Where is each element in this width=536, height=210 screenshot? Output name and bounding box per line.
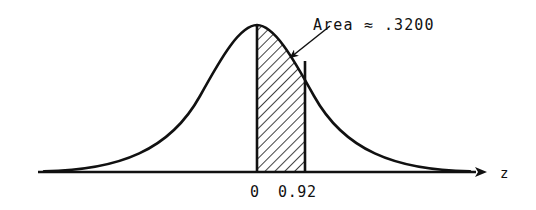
tick-label-z-value: 0.92: [278, 183, 317, 201]
area-annotation-label: Area ≈ .3200: [313, 16, 435, 34]
tick-label-zero: 0: [250, 183, 260, 201]
axis-label-z: z: [500, 165, 508, 181]
normal-curve-area-figure: Area ≈ .3200 0 0.92 z: [0, 0, 536, 210]
figure-canvas: Area ≈ .3200 0 0.92 z: [0, 0, 536, 210]
